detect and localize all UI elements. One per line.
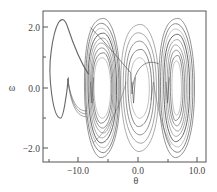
y-tick-label: 0.0 xyxy=(28,84,40,94)
trajectory-segment xyxy=(50,20,89,119)
x-tick-label: 10.0 xyxy=(189,166,206,176)
trajectory-segment xyxy=(92,48,113,128)
trajectory-curves xyxy=(50,18,195,157)
trajectory-segment xyxy=(130,58,149,119)
trajectory-segment xyxy=(126,41,155,135)
y-tick-label: −2.0 xyxy=(23,144,40,154)
trajectory-segment xyxy=(121,24,159,151)
trajectory-segment xyxy=(93,53,112,123)
x-tick-label: −10.0 xyxy=(67,166,89,176)
y-ticks xyxy=(43,27,48,148)
trajectory-segment xyxy=(94,58,111,119)
phase-space-chart: −10.0 0.0 10.0 2.0 0.0 −2.0 θ ω xyxy=(0,0,217,192)
x-axis-title: θ xyxy=(134,175,139,186)
y-axis-title: ω xyxy=(9,82,16,93)
trajectory-segment xyxy=(172,61,182,115)
y-tick-label: 2.0 xyxy=(28,23,40,33)
trajectory-segment xyxy=(169,50,185,126)
